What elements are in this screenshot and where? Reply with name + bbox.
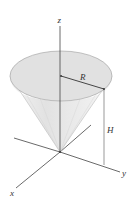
x-axis-label: x [9, 188, 14, 198]
y-axis-label: y [121, 168, 126, 178]
y-axis [60, 152, 120, 172]
height-label: H [106, 125, 114, 135]
radius-label: R [79, 72, 86, 82]
radius-center-dot [60, 75, 62, 77]
cone-diagram: z y x R H [0, 0, 135, 205]
z-axis-label: z [57, 15, 62, 25]
axes-front [16, 152, 120, 188]
origin-dot [59, 151, 61, 153]
x-axis [16, 152, 60, 188]
